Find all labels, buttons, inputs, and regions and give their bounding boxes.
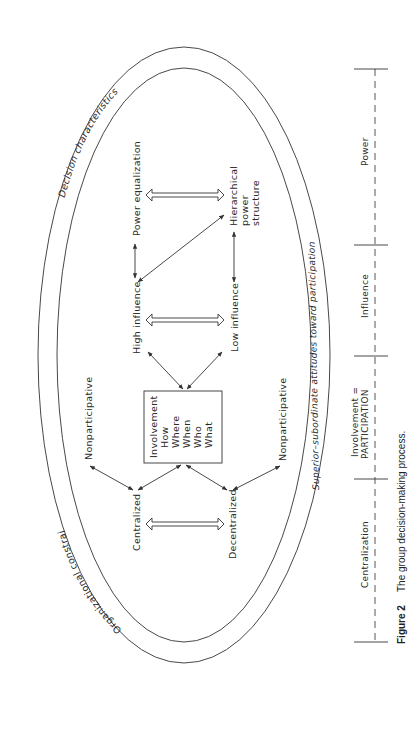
involvement-decentralized-arrow [186, 465, 227, 490]
high-influence-node: High influence [131, 281, 142, 354]
superior-subordinate-attitudes-label: Superior–subordinate attitudes toward pa… [307, 241, 321, 490]
centralized-node: Centralized [131, 494, 142, 551]
scale-label-centralization: Centralization [360, 521, 370, 588]
power-equalization-node: Power equalization [131, 141, 142, 236]
high-low-influence-double-arrow [146, 314, 224, 326]
figure-caption: Figure 2 The group decision-making proce… [390, 431, 409, 644]
nonparticipative-left-centralized-arrow [90, 466, 133, 490]
nonparticipative-left-node: Nonparticipative [83, 377, 94, 460]
power-equalization-hierarchy-double-arrow [146, 189, 224, 201]
inner-ellipse [57, 68, 311, 642]
scale-label-power: Power [360, 137, 370, 166]
decision-process-diagram: Decision characteristics Organizational … [0, 0, 412, 734]
hierarchical-power-structure-node: Hierarchical power structure [228, 162, 261, 226]
decentralized-node: Decentralized [227, 489, 238, 559]
scale-label-involvement: Involvement = PARTICIPATION [350, 383, 370, 459]
centralized-decentralized-double-arrow [146, 518, 224, 530]
decision-characteristics-label: Decision characteristics [56, 86, 120, 199]
involvement-centralized-arrow [138, 465, 181, 490]
nonparticipative-right-decentralized-arrow [233, 466, 280, 490]
low-influence-involvement-arrow [187, 352, 222, 389]
high-influence-hierarchy-arrow [138, 215, 224, 282]
scale-label-influence: Influence [360, 274, 370, 318]
nonparticipative-right-node: Nonparticipative [277, 378, 288, 461]
high-influence-involvement-arrow [148, 352, 183, 389]
low-influence-node: Low influence [229, 283, 240, 352]
involvement-box-text: Involvement How Where When Who What [148, 392, 214, 458]
